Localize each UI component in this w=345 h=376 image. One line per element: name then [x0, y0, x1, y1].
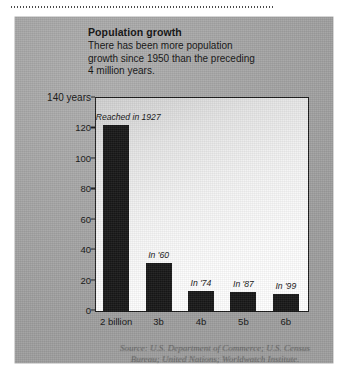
source-line: Source: U.S. Department of Commerce; U.S…	[95, 343, 335, 354]
bar	[230, 292, 256, 312]
y-axis-tick-label: 120	[75, 122, 91, 133]
y-axis-tick-label: 80	[80, 183, 91, 194]
page-title: Population growth	[88, 26, 182, 38]
infographic-panel: Population growth There has been more po…	[15, 17, 333, 363]
bar	[103, 125, 129, 312]
x-axis-tick-label: 2 billion	[100, 316, 132, 327]
bar-annotation: Reached in 1927	[96, 112, 161, 122]
bar-annotation: In '87	[233, 279, 254, 289]
bar	[146, 263, 172, 312]
blurb-text: There has been more population growth si…	[88, 40, 288, 78]
y-axis-tick-label: 60	[80, 213, 91, 224]
blurb-line: There has been more population	[88, 40, 288, 53]
top-dotted-rule	[11, 6, 275, 8]
bar-annotation: In '60	[148, 250, 169, 260]
y-axis-tick-label: 20	[80, 274, 91, 285]
bar	[273, 294, 299, 312]
y-axis-tick-label: 0	[86, 305, 91, 316]
x-axis-tick-label: 3b	[153, 316, 164, 327]
y-axis-tickmark	[91, 218, 95, 219]
y-axis-tickmark	[91, 97, 95, 98]
y-axis-tickmark	[91, 127, 95, 128]
x-axis-tick-label: 6b	[281, 316, 292, 327]
bar	[188, 291, 214, 312]
y-axis-tick-label: 100	[75, 152, 91, 163]
source-line: Bureau; United Nations; Worldwatch Insti…	[95, 354, 335, 365]
y-axis-tickmark	[91, 249, 95, 250]
bar-annotation: In '74	[191, 278, 212, 288]
bar-annotation: In '99	[275, 281, 296, 291]
x-axis-tick-label: 4b	[196, 316, 207, 327]
y-axis-tickmark	[91, 279, 95, 280]
x-axis-tick-label: 5b	[238, 316, 249, 327]
blurb-line: growth since 1950 than the preceding	[88, 53, 288, 66]
y-axis-tickmark	[91, 188, 95, 189]
y-axis-top-label: 140 years	[47, 92, 91, 103]
y-axis-tickmark	[91, 310, 95, 311]
y-axis-tick-label: 40	[80, 244, 91, 255]
y-axis-tickmark	[91, 157, 95, 158]
bar-chart: 020406080100120140 years Reached in 1927…	[95, 97, 309, 312]
blurb-line: 4 million years.	[88, 65, 288, 78]
source-note: Source: U.S. Department of Commerce; U.S…	[95, 343, 335, 365]
